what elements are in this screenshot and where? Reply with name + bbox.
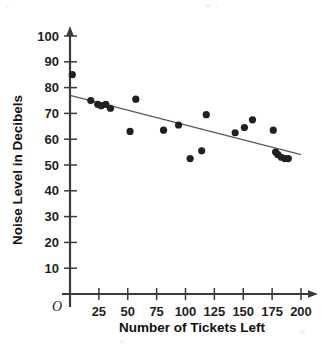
x-axis: [62, 290, 318, 298]
data-point: [241, 124, 248, 131]
x-tick-label: 150: [232, 304, 254, 319]
y-tick-label: 90: [45, 54, 59, 69]
x-axis-arrowhead: [308, 290, 318, 298]
y-tick-label: 20: [45, 235, 59, 250]
scan-artifact: [216, 5, 219, 8]
data-point: [69, 71, 76, 78]
data-point: [249, 116, 256, 123]
data-point-group: [69, 71, 292, 162]
y-tick-label: 60: [45, 132, 59, 147]
scatter-plot-figure: 102030405060708090100 255075100125150175…: [0, 0, 325, 355]
x-tick-label: 75: [149, 304, 163, 319]
x-tick-label: 200: [290, 304, 312, 319]
data-point: [175, 121, 182, 128]
data-point: [132, 96, 139, 103]
data-point: [160, 127, 167, 134]
x-tick-label: 50: [121, 304, 135, 319]
data-point: [270, 127, 277, 134]
origin-label: O: [52, 299, 62, 314]
chart-canvas: 102030405060708090100 255075100125150175…: [0, 0, 325, 355]
y-tick-label: 70: [45, 106, 59, 121]
y-axis-arrowhead: [66, 26, 74, 36]
y-tick-label: 100: [37, 29, 59, 44]
y-tick-label: 50: [45, 158, 59, 173]
x-tick-label: 175: [261, 304, 283, 319]
data-point: [107, 105, 114, 112]
x-tick-label: 25: [92, 304, 106, 319]
y-tick-label: 10: [45, 261, 59, 276]
y-axis: [66, 26, 74, 307]
data-point: [232, 129, 239, 136]
data-point: [87, 97, 94, 104]
y-axis-title: Noise Level in Decibels: [10, 95, 25, 245]
y-tick-label: 30: [45, 209, 59, 224]
scan-artifact: [6, 6, 9, 8]
scan-artifact: [120, 340, 124, 343]
y-axis-tick-labels: 102030405060708090100: [37, 29, 59, 276]
x-axis-title: Number of Tickets Left: [119, 320, 266, 335]
data-point: [198, 147, 205, 154]
data-point: [203, 111, 210, 118]
y-tick-label: 40: [45, 183, 59, 198]
x-tick-label: 125: [204, 304, 226, 319]
y-tick-label: 80: [45, 80, 59, 95]
data-point: [285, 155, 292, 162]
scan-artifact: [300, 330, 305, 334]
x-tick-label: 100: [175, 304, 197, 319]
scan-artifact: [206, 4, 210, 7]
x-axis-tick-labels: 255075100125150175200: [92, 304, 312, 319]
data-point: [187, 155, 194, 162]
data-point: [126, 128, 133, 135]
